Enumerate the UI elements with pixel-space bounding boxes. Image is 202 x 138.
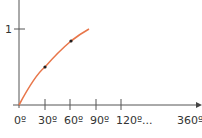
- point-60: [69, 39, 72, 42]
- x-axis-arrow-icon: [196, 102, 202, 108]
- x-tick-label-90: 90º: [90, 114, 109, 127]
- x-tick-label-120: 120º: [116, 114, 142, 127]
- x-tick-label-60: 60º: [64, 114, 83, 127]
- x-tick-label-0: 0º: [14, 114, 26, 127]
- sine-curve: [19, 29, 89, 105]
- x-tick-label-360: 360º: [177, 114, 202, 127]
- y-tick-label: 1: [5, 23, 12, 36]
- x-tick-label-30: 30º: [38, 114, 57, 127]
- sine-diagram: 1 0º 30º 60º 90º 120º ... 360º: [0, 0, 202, 138]
- x-axis-ellipsis: ...: [142, 114, 153, 127]
- point-30: [43, 65, 46, 68]
